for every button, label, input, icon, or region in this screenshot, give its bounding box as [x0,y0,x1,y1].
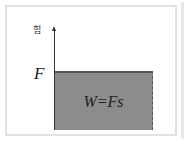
force-label: F [34,64,44,84]
work-area: W=Fs [55,71,153,130]
y-axis-label: 힘 [33,23,41,36]
work-formula-label: W=Fs [55,73,152,130]
frame-edge [181,2,184,139]
